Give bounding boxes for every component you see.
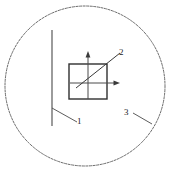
horizontal-axis-arrowhead-icon — [114, 81, 121, 86]
leader-line-1 — [52, 108, 77, 122]
figure-canvas — [0, 0, 172, 169]
detail-view-circle — [5, 6, 165, 166]
callout-label-2: 2 — [119, 48, 124, 57]
callout-label-1: 1 — [77, 117, 82, 126]
callout-label-3: 3 — [124, 108, 129, 117]
technical-drawing-figure: 1 2 3 — [0, 0, 172, 169]
leader-line-3 — [133, 113, 152, 124]
vertical-axis-arrowhead-icon — [86, 51, 91, 58]
